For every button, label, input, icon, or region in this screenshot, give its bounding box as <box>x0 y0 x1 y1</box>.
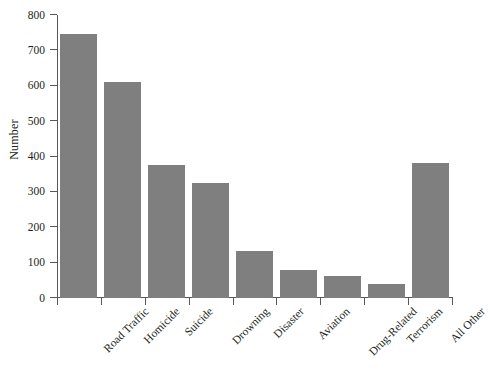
bar <box>368 284 405 298</box>
bar <box>324 276 361 298</box>
y-tick-label: 500 <box>28 115 45 127</box>
bar <box>412 163 449 298</box>
y-tick-label: 700 <box>28 44 45 56</box>
bar <box>104 82 141 298</box>
bar <box>60 34 97 298</box>
y-tick-label: 400 <box>28 150 45 162</box>
x-tick <box>145 298 146 305</box>
bar <box>192 183 229 298</box>
y-tick: 200 <box>50 226 57 227</box>
x-tick-label: Disaster <box>271 305 306 340</box>
y-tick: 0 <box>50 297 57 298</box>
x-tick <box>101 298 102 305</box>
x-tick <box>320 298 321 305</box>
x-tick-label: Drowning <box>230 305 271 346</box>
y-tick-label: 300 <box>28 185 45 197</box>
bar <box>148 165 185 298</box>
y-tick-label: 0 <box>39 292 45 304</box>
bar <box>280 270 317 298</box>
x-tick <box>276 298 277 305</box>
x-tick <box>189 298 190 305</box>
x-tick-label: Suicide <box>182 305 215 338</box>
x-axis-labels: Road TrafficHomicideSuicideDrowningDisas… <box>57 305 457 377</box>
x-tick <box>233 298 234 305</box>
y-tick: 100 <box>50 262 57 263</box>
x-tick-label: All Other <box>448 305 487 344</box>
bar <box>236 251 273 298</box>
y-tick: 400 <box>50 156 57 157</box>
y-tick-label: 100 <box>28 256 45 268</box>
y-tick: 700 <box>50 49 57 50</box>
y-tick-label: 800 <box>28 9 45 21</box>
y-tick: 600 <box>50 85 57 86</box>
y-axis-label: Number <box>7 100 22 180</box>
x-tick <box>408 298 409 305</box>
y-tick: 300 <box>50 191 57 192</box>
y-tick: 500 <box>50 120 57 121</box>
x-tick <box>57 298 58 305</box>
x-tick-label: Road Traffic <box>101 305 151 355</box>
y-axis-line <box>57 15 58 298</box>
x-tick <box>452 298 453 305</box>
y-tick-label: 600 <box>28 79 45 91</box>
x-tick <box>364 298 365 305</box>
x-tick-label: Aviation <box>315 305 351 341</box>
y-tick-label: 200 <box>28 221 45 233</box>
plot-area: 0100200300400500600700800 <box>57 15 452 298</box>
y-tick: 800 <box>50 14 57 15</box>
